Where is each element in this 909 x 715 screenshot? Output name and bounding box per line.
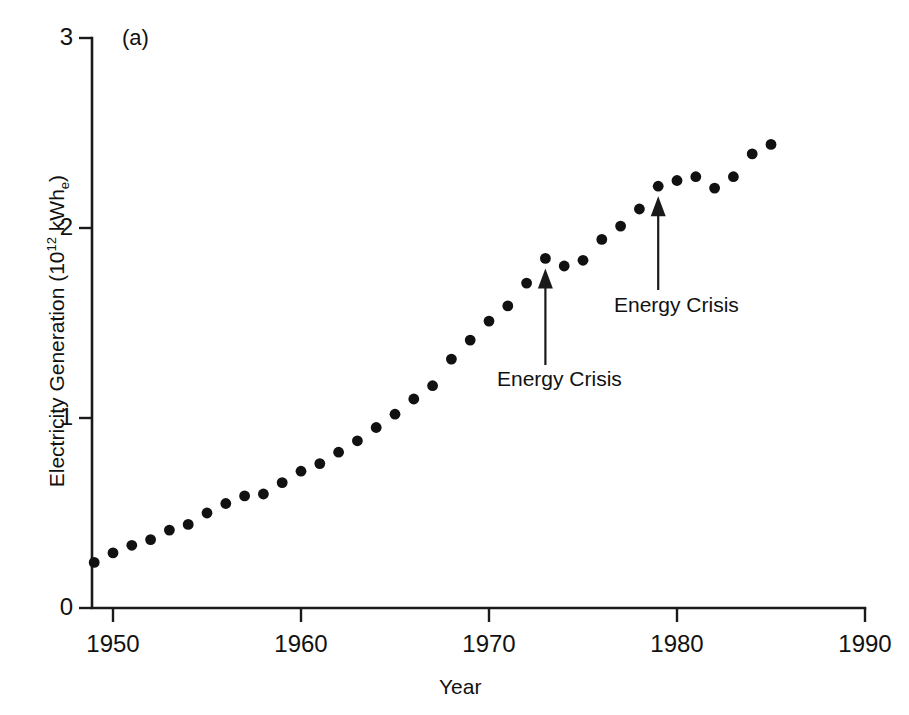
data-point: [108, 548, 119, 559]
axes: [92, 38, 865, 608]
data-point: [371, 422, 382, 433]
y-tick-label-3: 3: [33, 25, 73, 49]
annotation-arrows: [538, 196, 666, 365]
y-tick-label-0: 0: [33, 595, 73, 619]
data-point: [578, 255, 589, 266]
data-point: [427, 380, 438, 391]
data-point: [333, 447, 344, 458]
data-point: [296, 466, 307, 477]
data-point: [314, 458, 325, 469]
x-axis-label: Year: [439, 676, 481, 697]
y-axis-label: Electricity Generation (1012 kWhe): [45, 121, 71, 541]
data-point: [766, 139, 777, 150]
arrow-head: [538, 268, 553, 288]
axis-spine: [92, 38, 865, 608]
data-point: [390, 409, 401, 420]
axis-ticks: [79, 38, 865, 622]
data-point: [728, 171, 739, 182]
annotation-arrow-0: [538, 268, 553, 365]
data-point: [202, 508, 213, 519]
panel-label: (a): [122, 27, 149, 49]
plot-canvas: [0, 0, 909, 715]
x-tick-label-1980: 1980: [632, 632, 722, 656]
data-point: [465, 335, 476, 346]
data-point: [126, 540, 137, 551]
data-point: [521, 278, 532, 289]
data-point: [183, 519, 194, 530]
data-point: [502, 301, 513, 312]
data-point: [239, 491, 250, 502]
data-point: [653, 181, 664, 192]
data-point: [634, 204, 645, 215]
y-axis-label-subscript: e: [57, 182, 72, 189]
x-tick-label-1970: 1970: [444, 632, 534, 656]
y-axis-label-superscript: 12: [44, 237, 59, 251]
data-points: [89, 139, 777, 568]
data-point: [145, 534, 156, 545]
y-axis-label-suffix: ): [45, 175, 68, 182]
data-point: [220, 498, 231, 509]
y-tick-label-2: 2: [33, 215, 73, 239]
annotation-arrow-1: [651, 196, 666, 290]
x-tick-label-1960: 1960: [256, 632, 346, 656]
figure-panel-a: Electricity Generation (1012 kWhe) Year …: [0, 0, 909, 715]
data-point: [559, 261, 570, 272]
data-point: [352, 435, 363, 446]
y-axis-label-prefix: Electricity Generation (10: [45, 251, 68, 487]
data-point: [596, 234, 607, 245]
data-point: [690, 171, 701, 182]
arrow-head: [651, 196, 666, 216]
annotation-label-energy-crisis-1973: Energy Crisis: [497, 368, 622, 389]
data-point: [709, 183, 720, 194]
data-point: [446, 354, 457, 365]
x-tick-label-1990: 1990: [820, 632, 909, 656]
data-point: [615, 221, 626, 232]
data-point: [164, 525, 175, 536]
y-tick-label-1: 1: [33, 405, 73, 429]
data-point: [747, 149, 758, 160]
data-point: [484, 316, 495, 327]
annotation-label-energy-crisis-1979: Energy Crisis: [614, 294, 739, 315]
data-point: [672, 175, 683, 186]
data-point: [89, 557, 100, 568]
x-tick-label-1950: 1950: [68, 632, 158, 656]
data-point: [277, 477, 288, 488]
data-point: [408, 394, 419, 405]
data-point: [258, 489, 269, 500]
data-point: [540, 253, 551, 264]
